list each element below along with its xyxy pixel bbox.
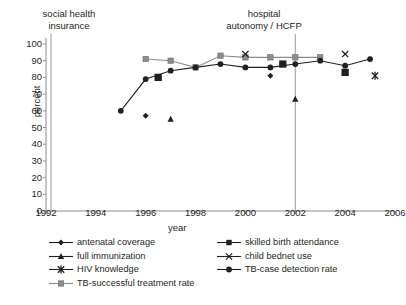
data-point-circle — [267, 64, 273, 70]
data-point-square — [293, 55, 298, 60]
y-tick-label: 20 — [18, 172, 42, 183]
data-point-square — [58, 281, 63, 286]
y-tick-label: 40 — [18, 138, 42, 149]
data-point-circle — [226, 267, 232, 273]
cross-marker-icon — [216, 250, 242, 263]
x-axis-ticks: 19921994199619982000200220042006 — [0, 207, 406, 221]
series-antenatal-coverage — [143, 73, 274, 119]
legend-marker — [48, 250, 74, 263]
legend-label: TB-case detection rate — [245, 263, 337, 277]
x-tick-label: 2002 — [278, 207, 312, 218]
y-axis-label: percent — [31, 72, 42, 132]
data-point-square — [341, 69, 348, 76]
data-point-circle — [143, 76, 149, 82]
legend-marker — [48, 236, 74, 249]
data-point-triangle — [168, 116, 174, 122]
y-tick-label: 10 — [18, 188, 42, 199]
series-hiv-knowledge — [372, 72, 378, 80]
legend-label: antenatal coverage — [77, 236, 155, 250]
x-tick-label: 2000 — [228, 207, 262, 218]
data-point-circle — [317, 58, 323, 64]
data-point-circle — [243, 64, 249, 70]
legend-label: TB-successful treatment rate — [77, 277, 194, 291]
data-point-diamond — [267, 73, 273, 79]
legend-label: HIV knowledge — [77, 263, 139, 277]
data-point-square — [279, 60, 286, 67]
data-point-circle — [218, 61, 224, 67]
y-tick-label: 90 — [18, 55, 42, 66]
triangle-marker-icon — [48, 250, 74, 263]
data-point-circle — [118, 108, 124, 114]
y-tick-label: 30 — [18, 155, 42, 166]
legend-marker — [216, 263, 242, 276]
legend-column-left: antenatal coveragefull immunizationHIV k… — [48, 236, 218, 290]
legend-item[interactable]: TB-successful treatment rate — [48, 277, 218, 291]
series-tb-case-detection-rate — [118, 56, 373, 114]
legend-column-right: skilled birth attendancechild bednet use… — [216, 236, 406, 277]
x-tick-label: 2004 — [328, 207, 362, 218]
square-marker-icon — [216, 236, 242, 249]
data-point-circle — [292, 61, 298, 67]
legend-item[interactable]: full immunization — [48, 250, 218, 264]
data-point-diamond — [58, 240, 64, 246]
x-tick-label: 2006 — [378, 207, 406, 218]
diamond-marker-icon — [48, 236, 74, 249]
y-axis-ticks: 0102030405060708090100 — [14, 0, 42, 305]
legend-item[interactable]: skilled birth attendance — [216, 236, 406, 250]
legend-item[interactable]: HIV knowledge — [48, 263, 218, 277]
data-point-square — [168, 58, 173, 63]
legend-marker — [216, 250, 242, 263]
data-point-circle — [367, 56, 373, 62]
circle-marker-icon — [216, 263, 242, 276]
legend-label: child bednet use — [245, 250, 312, 264]
legend-marker — [216, 236, 242, 249]
x-tick-label: 1994 — [79, 207, 113, 218]
legend-item[interactable]: TB-case detection rate — [216, 263, 406, 277]
data-point-circle — [168, 68, 174, 74]
legend-item[interactable]: child bednet use — [216, 250, 406, 264]
data-point-triangle — [292, 96, 298, 102]
square-marker-icon — [48, 277, 74, 290]
legend-item[interactable]: antenatal coverage — [48, 236, 218, 250]
data-point-diamond — [143, 113, 149, 119]
data-point-asterisk — [372, 72, 378, 80]
legend-label: skilled birth attendance — [245, 236, 339, 250]
data-point-square — [155, 74, 162, 81]
y-tick-label: 100 — [18, 38, 42, 49]
legend-marker — [48, 263, 74, 276]
x-tick-label: 1998 — [179, 207, 213, 218]
x-tick-label: 1996 — [129, 207, 163, 218]
legend-label: full immunization — [77, 250, 145, 264]
x-tick-label: 1992 — [29, 207, 63, 218]
data-point-square — [218, 53, 223, 58]
data-point-square — [268, 55, 273, 60]
data-point-cross — [342, 51, 348, 57]
legend-marker — [48, 277, 74, 290]
data-point-square — [143, 56, 148, 61]
data-point-square — [226, 240, 231, 245]
data-point-circle — [193, 64, 199, 70]
x-axis-label: year — [168, 222, 186, 233]
data-point-circle — [342, 63, 348, 69]
series-full-immunization — [168, 96, 299, 122]
asterisk-marker-icon — [48, 263, 74, 276]
